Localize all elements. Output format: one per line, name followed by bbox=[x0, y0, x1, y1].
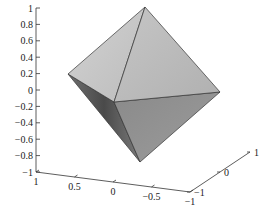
z-tick-label: −0.2 bbox=[15, 101, 33, 112]
z-tick-label: 0.4 bbox=[21, 52, 34, 63]
face-lower-right bbox=[114, 92, 220, 162]
x-tick-label: 1 bbox=[34, 176, 39, 187]
y-tick-label: 1 bbox=[254, 147, 259, 158]
z-tick-label: 0.2 bbox=[21, 68, 34, 79]
z-tick-label: −1 bbox=[22, 167, 33, 178]
x-tick-label: −0.5 bbox=[142, 191, 160, 202]
z-axis: 10.80.60.40.20−0.2−0.4−0.6−0.8−1 bbox=[15, 3, 40, 178]
x-axis: 10.50−0.5−1 bbox=[34, 170, 196, 207]
z-tick-label: 0 bbox=[28, 85, 33, 96]
z-tick-label: 0.6 bbox=[21, 35, 34, 46]
y-axis: −101 bbox=[187, 147, 259, 198]
z-tick-label: −0.6 bbox=[15, 134, 33, 145]
z-tick-label: −0.4 bbox=[15, 117, 33, 128]
z-tick-label: −0.8 bbox=[15, 150, 33, 161]
y-tick-label: 0 bbox=[224, 167, 229, 178]
y-tick-label: −1 bbox=[194, 187, 205, 198]
z-tick-label: 1 bbox=[28, 3, 33, 14]
octahedron bbox=[68, 7, 220, 162]
octahedron-3d-plot: 10.80.60.40.20−0.2−0.4−0.6−0.8−1 10.50−0… bbox=[0, 0, 271, 207]
x-tick-label: 0 bbox=[111, 186, 116, 197]
z-tick-label: 0.8 bbox=[21, 19, 34, 30]
x-tick-label: 0.5 bbox=[68, 181, 81, 192]
